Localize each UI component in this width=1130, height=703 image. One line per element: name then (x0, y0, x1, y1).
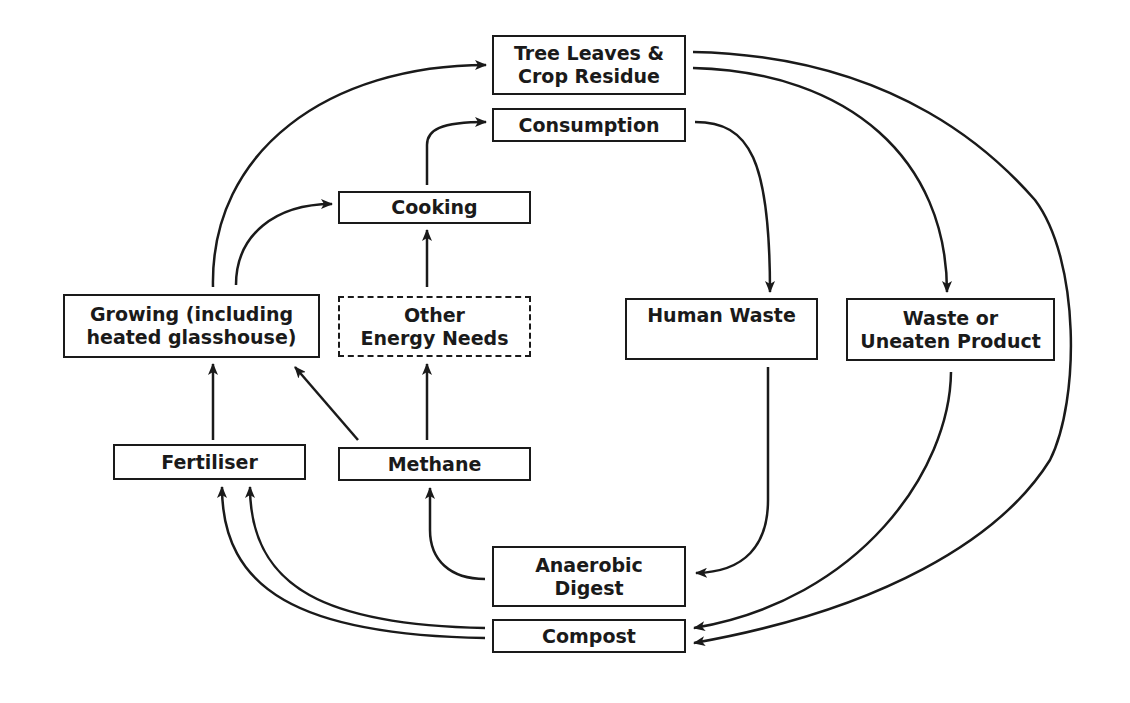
arrow-consumption-to-human-waste (695, 122, 770, 292)
arrow-waste-to-compost (694, 372, 951, 628)
node-cooking: Cooking (338, 191, 531, 224)
node-label: Fertiliser (161, 451, 258, 474)
node-label: Tree Leaves & Crop Residue (514, 42, 664, 88)
node-other-energy-needs: Other Energy Needs (338, 296, 531, 357)
arrow-growing-to-tree-leaves (213, 65, 486, 287)
node-label: Waste or Uneaten Product (860, 307, 1041, 353)
node-methane: Methane (338, 447, 531, 481)
node-label: Human Waste (647, 304, 796, 327)
node-consumption: Consumption (492, 108, 686, 142)
arrow-methane-to-growing (295, 367, 358, 440)
node-label: Anaerobic Digest (535, 554, 643, 600)
node-label: Cooking (391, 196, 477, 219)
arrow-compost-to-fertiliser-2 (222, 487, 485, 638)
arrow-compost-to-fertiliser-1 (250, 487, 485, 628)
node-human-waste: Human Waste (625, 298, 818, 360)
node-label: Compost (542, 625, 636, 648)
node-fertiliser: Fertiliser (113, 444, 306, 480)
arrow-human-waste-to-anaerobic (696, 367, 768, 573)
node-label: Growing (including heated glasshouse) (87, 303, 297, 349)
node-label: Methane (388, 453, 482, 476)
arrow-cooking-to-consumption (427, 122, 486, 185)
node-tree-leaves: Tree Leaves & Crop Residue (492, 35, 686, 95)
node-label: Other Energy Needs (361, 304, 509, 350)
node-growing: Growing (including heated glasshouse) (63, 294, 320, 358)
arrow-anaerobic-to-methane (430, 488, 485, 579)
node-label: Consumption (519, 114, 660, 137)
node-waste-uneaten-product: Waste or Uneaten Product (846, 298, 1055, 361)
node-anaerobic-digest: Anaerobic Digest (492, 546, 686, 607)
node-compost: Compost (492, 619, 686, 653)
arrow-growing-to-cooking (236, 204, 332, 285)
